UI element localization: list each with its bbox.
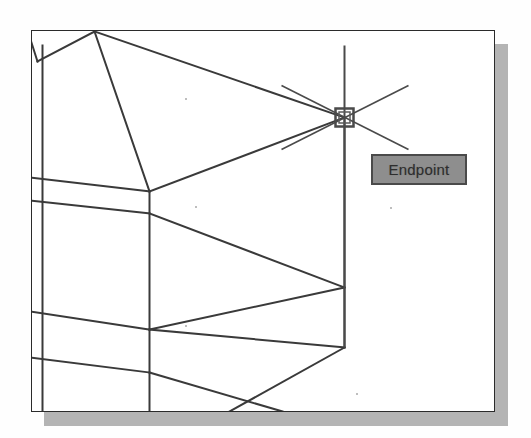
endpoint-marker [32, 31, 494, 411]
osnap-tooltip-label: Endpoint [389, 161, 450, 178]
application-root: Endpoint [0, 0, 531, 438]
scan-speck [185, 98, 187, 100]
scan-speck [356, 393, 358, 395]
scan-speck [390, 207, 392, 209]
drawing-viewport[interactable] [31, 30, 495, 412]
scan-speck [185, 325, 187, 327]
endpoint-marker-outer-square [336, 109, 354, 127]
scan-speck [195, 206, 197, 208]
endpoint-marker-inner-square [339, 112, 350, 123]
osnap-tooltip: Endpoint [371, 154, 467, 185]
